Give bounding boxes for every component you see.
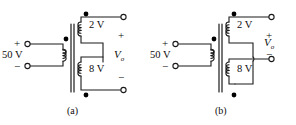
polarity-dot-primary-a xyxy=(64,37,69,42)
transformer-core-a xyxy=(71,24,74,92)
output-minus-sign-a: − xyxy=(118,72,124,83)
winding-label-8v-b: 8 V xyxy=(237,64,252,75)
terminal-primary-minus-a xyxy=(25,63,30,68)
output-voltage-symbol-a: V xyxy=(114,48,121,60)
panel-caption-a: (a) xyxy=(67,106,78,116)
primary-plus-sign-b: + xyxy=(162,38,168,49)
secondary-coil-8v-b xyxy=(226,62,229,76)
primary-minus-sign-a: − xyxy=(14,61,20,72)
secondary-2v-bottom-lead-a xyxy=(81,36,103,62)
primary-minus-sign-b: − xyxy=(162,61,168,72)
polarity-dot-2v-b xyxy=(232,12,237,17)
polarity-dot-8v-b xyxy=(232,93,237,98)
winding-label-2v-a: 2 V xyxy=(89,20,104,31)
circuit-panel-b: + − 50 V 2 V 8 V + − Vo (b) xyxy=(148,0,296,125)
secondary-2v-bottom-lead-b xyxy=(229,36,253,57)
secondary-8v-top-lead-a xyxy=(81,57,103,62)
primary-plus-sign-a: + xyxy=(14,38,20,49)
terminal-primary-plus-a xyxy=(25,41,30,46)
polarity-dot-8v-a xyxy=(84,93,89,98)
terminal-primary-minus-b xyxy=(173,63,178,68)
transformer-figure: + − 50 V 2 V 8 V + − Vo (a) xyxy=(0,0,296,125)
output-plus-sign-a: + xyxy=(118,30,124,41)
panel-caption-b: (b) xyxy=(215,106,227,116)
terminal-output-plus-b xyxy=(269,14,274,19)
polarity-dot-2v-a xyxy=(84,12,89,17)
primary-top-lead-a xyxy=(30,44,63,50)
secondary-8v-top-lead-b xyxy=(229,59,269,62)
source-voltage-label-b: 50 V xyxy=(150,50,171,61)
secondary-coil-8v-a xyxy=(78,62,81,76)
terminal-primary-plus-b xyxy=(173,41,178,46)
primary-coil-a xyxy=(63,49,66,61)
secondary-8v-bottom-lead-b xyxy=(229,76,235,84)
output-voltage-subscript-a: o xyxy=(121,55,125,63)
transformer-core-b xyxy=(219,24,222,92)
output-voltage-label-a: Vo xyxy=(114,49,124,63)
primary-bottom-lead-a xyxy=(30,61,63,66)
source-voltage-label-a: 50 V xyxy=(2,50,23,61)
primary-top-lead-b xyxy=(178,44,211,50)
winding-label-2v-b: 2 V xyxy=(237,20,252,31)
winding-label-8v-a: 8 V xyxy=(89,64,104,75)
circuit-panel-a: + − 50 V 2 V 8 V + − Vo (a) xyxy=(0,0,148,125)
terminal-output-minus-a xyxy=(121,87,126,92)
output-voltage-label-b: Vo xyxy=(264,37,274,51)
secondary-coil-2v-b xyxy=(226,22,229,36)
output-voltage-subscript-b: o xyxy=(271,43,275,51)
secondary-coil-2v-a xyxy=(78,22,81,36)
primary-coil-b xyxy=(211,49,214,61)
primary-bottom-lead-b xyxy=(178,61,211,66)
secondary-8v-bottom-lead-a xyxy=(81,76,121,90)
polarity-dot-primary-b xyxy=(212,37,217,42)
output-voltage-symbol-b: V xyxy=(264,36,271,48)
terminal-output-plus-a xyxy=(121,14,126,19)
